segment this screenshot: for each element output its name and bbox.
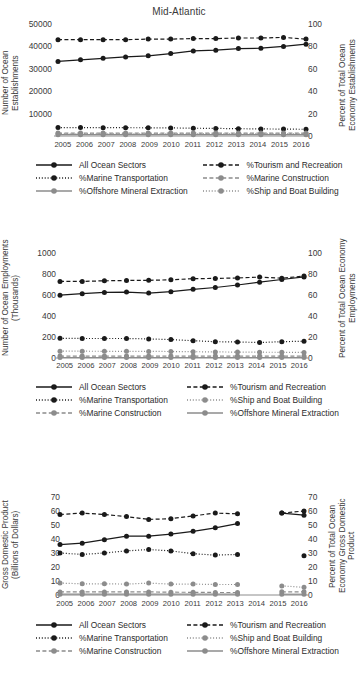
x-axis-tick-label: 2006 (74, 140, 96, 149)
data-point (281, 131, 286, 136)
axis-tick-label: 20 (308, 562, 317, 572)
legend-item[interactable]: %Marine Transportation (34, 173, 168, 183)
data-point (78, 125, 83, 130)
x-axis-tick-label: 2015 (267, 361, 288, 370)
data-point (213, 355, 218, 360)
legend-item[interactable]: %Tourism and Recreation (185, 382, 326, 392)
legend-item[interactable]: %Offshore Mineral Extraction (34, 186, 188, 196)
data-point (80, 349, 85, 354)
legend-marker-icon (185, 408, 225, 418)
legend-marker-icon (34, 633, 74, 643)
data-point (213, 48, 218, 53)
axis-tick-label: 10 (308, 576, 317, 586)
data-point (56, 131, 61, 136)
series-line (282, 586, 304, 587)
legend-marker-icon (201, 173, 241, 183)
data-point (235, 340, 240, 345)
data-point (279, 355, 284, 360)
axis-tick-label: 200 (42, 332, 56, 342)
x-axis-tick-label: 2014 (246, 599, 267, 608)
axis-tick-label: 100 (308, 19, 322, 29)
x-axis-tick-label: 2009 (139, 599, 160, 608)
x-axis-tick-label: 2010 (161, 599, 182, 608)
legend-marker-icon (201, 160, 241, 170)
data-point (168, 289, 173, 294)
data-point (102, 581, 107, 586)
axis-tick-label: 600 (42, 290, 56, 300)
legend-item[interactable]: %Marine Construction (34, 408, 161, 418)
axis-tick-label: 40 (308, 311, 317, 321)
legend-label: %Offshore Mineral Extraction (79, 186, 188, 196)
data-point (235, 521, 240, 526)
data-point (235, 276, 240, 281)
data-point (258, 36, 263, 41)
data-point (80, 291, 85, 296)
legend-item[interactable]: %Ship and Boat Building (185, 633, 322, 643)
x-axis-tick-label: 2006 (75, 599, 96, 608)
data-point (80, 336, 85, 341)
plot-svg (58, 24, 306, 136)
legend-item[interactable]: %Marine Transportation (34, 395, 168, 405)
series-line (60, 276, 304, 281)
x-axis-tick-label: 2011 (182, 599, 203, 608)
legend-item[interactable]: %Marine Construction (34, 646, 161, 656)
data-point (281, 44, 286, 49)
data-point (191, 338, 196, 343)
legend-item[interactable]: %Ship and Boat Building (201, 186, 338, 196)
legend-marker-icon (34, 173, 74, 183)
data-point (58, 592, 63, 597)
data-point (101, 56, 106, 61)
data-point (168, 548, 173, 553)
data-point (235, 283, 240, 288)
data-point (279, 583, 284, 588)
x-axis-tick-label: 2007 (97, 361, 118, 370)
legend-item[interactable]: %Tourism and Recreation (185, 620, 326, 630)
legend-item[interactable]: %Offshore Mineral Extraction (185, 646, 339, 656)
axis-tick-label: 70 (308, 492, 317, 502)
x-axis-tick-label: 2007 (95, 140, 117, 149)
legend-label: %Offshore Mineral Extraction (230, 646, 339, 656)
series-line (58, 44, 306, 61)
data-point (124, 355, 129, 360)
data-point (191, 592, 196, 597)
legend-item[interactable]: %Tourism and Recreation (201, 160, 342, 170)
legend-marker-icon (185, 382, 225, 392)
data-point (281, 35, 286, 40)
series-line (58, 128, 306, 130)
data-point (123, 131, 128, 136)
data-point (146, 53, 151, 58)
x-axis-ticks-3: 2005200620072008200920102011201220132014… (54, 599, 310, 608)
plot-area-1 (58, 24, 306, 136)
data-point (213, 525, 218, 530)
legend-marker-icon (185, 620, 225, 630)
legend-item[interactable]: %Ship and Boat Building (185, 395, 322, 405)
series-marinetransportation (56, 125, 309, 132)
x-axis-ticks-2: 2005200620072008200920102011201220132014… (54, 361, 310, 370)
x-axis-tick-label: 2012 (204, 140, 226, 149)
data-point (279, 339, 284, 344)
series-alloceansectors (58, 274, 307, 297)
legend-item[interactable]: All Ocean Sectors (34, 382, 146, 392)
data-point (146, 37, 151, 42)
data-point (101, 131, 106, 136)
series-line (60, 351, 304, 352)
series-tourismandrecreation (58, 509, 307, 522)
data-point (102, 336, 107, 341)
data-point (78, 57, 83, 62)
axis-tick-label: 100 (308, 248, 322, 258)
legend-marker-icon (185, 395, 225, 405)
data-point (168, 582, 173, 587)
data-point (102, 355, 107, 360)
y-axis-ticks-right-1: 020406080100 (308, 24, 338, 136)
legend-item[interactable]: All Ocean Sectors (34, 160, 146, 170)
legend-item[interactable]: %Offshore Mineral Extraction (185, 408, 339, 418)
legend-item[interactable]: %Marine Transportation (34, 633, 168, 643)
data-point (257, 275, 262, 280)
data-point (123, 37, 128, 42)
data-point (236, 126, 241, 131)
legend-item[interactable]: %Marine Construction (201, 173, 328, 183)
data-point (123, 125, 128, 130)
data-point (146, 547, 151, 552)
legend-item[interactable]: All Ocean Sectors (34, 620, 146, 630)
plot-svg (60, 253, 304, 358)
